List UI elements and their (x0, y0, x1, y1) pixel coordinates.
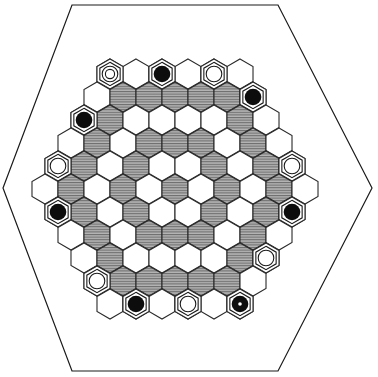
piece-white[interactable] (50, 158, 66, 174)
piece-white[interactable] (89, 273, 105, 289)
piece-black[interactable] (128, 296, 145, 313)
black-piece-icon (76, 112, 93, 129)
white-piece-icon (258, 250, 274, 266)
black-piece-icon (128, 296, 145, 313)
piece-double-ring[interactable] (102, 66, 118, 82)
white-piece-icon (206, 66, 222, 82)
white-piece-icon (50, 158, 66, 174)
piece-white[interactable] (284, 158, 300, 174)
piece-black[interactable] (245, 89, 262, 106)
hex-grid (32, 59, 318, 319)
black-piece-icon (284, 204, 301, 221)
piece-white[interactable] (258, 250, 274, 266)
white-piece-icon (284, 158, 300, 174)
piece-white[interactable] (180, 296, 196, 312)
piece-black[interactable] (284, 204, 301, 221)
piece-black-dot[interactable] (232, 296, 249, 313)
piece-black[interactable] (154, 66, 171, 83)
white-piece-icon (89, 273, 105, 289)
game-board (0, 0, 378, 377)
piece-white[interactable] (206, 66, 222, 82)
black-piece-icon (245, 89, 262, 106)
piece-black[interactable] (76, 112, 93, 129)
black-piece-icon (154, 66, 171, 83)
piece-black[interactable] (50, 204, 67, 221)
white-piece-icon (180, 296, 196, 312)
white-ring-inner-icon (105, 69, 114, 78)
white-dot-icon (238, 302, 242, 306)
black-piece-icon (50, 204, 67, 221)
